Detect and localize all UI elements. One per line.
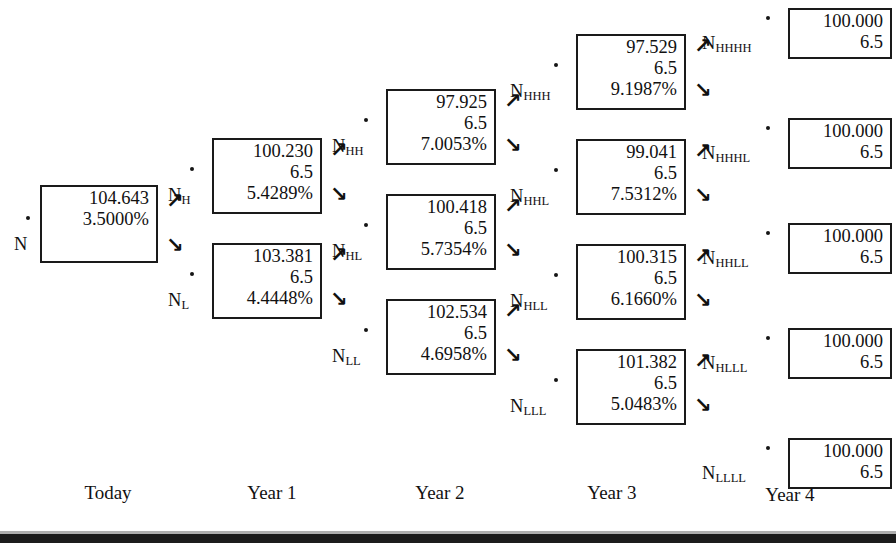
node-dot-nhll xyxy=(554,273,558,277)
node-rate: 7.5312% xyxy=(584,184,677,205)
arrow-down-icon: ↘ xyxy=(166,235,184,256)
node-dot-nhlll xyxy=(766,336,770,340)
node-label-subscript: HHLL xyxy=(715,256,748,270)
node-label-nl: NL xyxy=(168,290,189,313)
arrow-down-icon: ↘ xyxy=(694,185,712,206)
node-box-nhhll: 100.0006.5 xyxy=(788,223,892,274)
node-label-subscript: HL xyxy=(345,249,362,263)
arrow-down-icon: ↘ xyxy=(504,345,522,366)
node-value: 102.534 xyxy=(394,302,487,323)
node-rate: 5.4289% xyxy=(220,183,313,204)
node-value: 100.000 xyxy=(796,331,883,352)
node-label-base: N xyxy=(168,290,181,310)
node-coupon: 6.5 xyxy=(394,218,487,239)
node-box-nhlll: 100.0006.5 xyxy=(788,328,892,379)
node-label-nlll: NLLL xyxy=(510,396,546,419)
node-rate: 5.0483% xyxy=(584,394,677,415)
node-label-n: N xyxy=(14,234,27,255)
binomial-tree-diagram: 104.6433.5000%N↗↘100.2306.55.4289%NH↗↘10… xyxy=(0,0,896,543)
node-label-nhh: NHH xyxy=(332,136,363,159)
node-coupon: 6.5 xyxy=(220,162,313,183)
node-label-base: N xyxy=(510,186,523,206)
node-label-base: N xyxy=(702,463,715,483)
node-label-subscript: H xyxy=(181,193,190,207)
node-coupon: 6.5 xyxy=(584,58,677,79)
node-label-subscript: HH xyxy=(345,144,363,158)
node-dot-nhh xyxy=(364,118,368,122)
node-box-nh: 100.2306.55.4289% xyxy=(212,138,322,214)
node-label-nhll: NHLL xyxy=(510,291,548,314)
timeline-label-4: Year 4 xyxy=(745,484,835,506)
node-label-subscript: LLL xyxy=(523,404,546,418)
node-value: 100.000 xyxy=(796,121,883,142)
arrow-down-icon: ↘ xyxy=(694,80,712,101)
node-label-base: N xyxy=(510,396,523,416)
node-coupon: 6.5 xyxy=(796,352,883,373)
node-label-subscript: HHH xyxy=(523,89,550,103)
node-coupon: 6.5 xyxy=(584,268,677,289)
node-coupon: 6.5 xyxy=(796,462,883,483)
node-dot-nllll xyxy=(766,446,770,450)
node-label-base: N xyxy=(510,291,523,311)
node-box-nhl: 100.4186.55.7354% xyxy=(386,194,496,270)
node-box-nhhhh: 100.0006.5 xyxy=(788,8,892,59)
node-box-nhhh: 97.5296.59.1987% xyxy=(576,34,686,110)
node-box-nll: 102.5346.54.6958% xyxy=(386,299,496,375)
node-label-subscript: L xyxy=(181,298,189,312)
node-label-base: N xyxy=(702,33,715,53)
node-box-nhh: 97.9256.57.0053% xyxy=(386,89,496,165)
node-rate: 4.6958% xyxy=(394,344,487,365)
timeline-label-0: Today xyxy=(63,482,153,504)
timeline-label-3: Year 3 xyxy=(567,482,657,504)
node-value: 97.925 xyxy=(394,92,487,113)
node-dot-nl xyxy=(190,272,194,276)
node-coupon: 6.5 xyxy=(394,323,487,344)
node-dot-nhhhh xyxy=(766,16,770,20)
arrow-down-icon: ↘ xyxy=(330,184,348,205)
node-label-subscript: HHHL xyxy=(715,151,750,165)
node-label-nhhl: NHHL xyxy=(510,186,549,209)
node-dot-nhl xyxy=(364,223,368,227)
node-value: 99.041 xyxy=(584,142,677,163)
bottom-rule xyxy=(0,534,896,543)
node-coupon: 6.5 xyxy=(220,267,313,288)
node-label-nh: NH xyxy=(168,185,190,208)
node-label-nll: NLL xyxy=(332,346,361,369)
node-label-base: N xyxy=(510,81,523,101)
arrow-down-icon: ↘ xyxy=(694,290,712,311)
timeline-label-2: Year 2 xyxy=(395,482,485,504)
node-label-base: N xyxy=(168,185,181,205)
node-dot-nh xyxy=(190,167,194,171)
node-label-subscript: LLLL xyxy=(715,471,746,485)
node-label-nhlll: NHLLL xyxy=(702,353,747,376)
node-value: 100.230 xyxy=(220,141,313,162)
node-label-nhhh: NHHH xyxy=(510,81,550,104)
node-dot-nhhll xyxy=(766,231,770,235)
node-rate: 7.0053% xyxy=(394,134,487,155)
node-box-nl: 103.3816.54.4448% xyxy=(212,243,322,319)
node-rate: 5.7354% xyxy=(394,239,487,260)
node-label-nhhhh: NHHHH xyxy=(702,33,751,56)
node-dot-nlll xyxy=(554,378,558,382)
node-coupon: 6.5 xyxy=(584,373,677,394)
timeline-label-1: Year 1 xyxy=(227,482,317,504)
node-box-nllll: 100.0006.5 xyxy=(788,438,892,489)
node-rate: 3.5000% xyxy=(48,209,149,230)
node-box-nhhhl: 100.0006.5 xyxy=(788,118,892,169)
node-label-base: N xyxy=(702,353,715,373)
node-dot-nhhhl xyxy=(766,126,770,130)
node-label-subscript: HLLL xyxy=(715,361,747,375)
node-coupon: 6.5 xyxy=(584,163,677,184)
node-dot-n xyxy=(26,216,30,220)
node-coupon: 6.5 xyxy=(796,247,883,268)
node-value: 101.382 xyxy=(584,352,677,373)
node-label-nhhll: NHHLL xyxy=(702,248,749,271)
node-label-nhhhl: NHHHL xyxy=(702,143,750,166)
node-label-base: N xyxy=(332,136,345,156)
arrow-down-icon: ↘ xyxy=(330,289,348,310)
arrow-down-icon: ↘ xyxy=(504,240,522,261)
node-value: 100.315 xyxy=(584,247,677,268)
node-dot-nhhl xyxy=(554,168,558,172)
node-label-base: N xyxy=(702,143,715,163)
node-rate: 9.1987% xyxy=(584,79,677,100)
